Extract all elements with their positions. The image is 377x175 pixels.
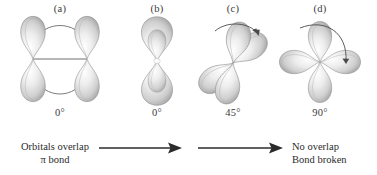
- p-orbital-fixed-c: [213, 20, 254, 106]
- node-highlight-b: [154, 59, 160, 64]
- angle-label-a: 0°: [35, 107, 85, 118]
- caption-right-line1: No overlap: [292, 141, 339, 152]
- caption-right-line2: Bond broken: [292, 153, 347, 166]
- panel-d-orbitals: [279, 21, 360, 102]
- orbital-rotation-figure: (a) (b) (c) (d): [0, 0, 377, 175]
- flow-arrow-2: [198, 143, 283, 154]
- panel-a-orbitals: [21, 16, 100, 101]
- panel-b-orbitals: [141, 17, 172, 106]
- angle-label-d: 90°: [295, 107, 345, 118]
- panel-c-orbitals: [193, 20, 272, 106]
- flow-arrow-1: [99, 143, 182, 154]
- angle-label-c: 45°: [208, 107, 258, 118]
- caption-right: No overlap Bond broken: [292, 140, 347, 166]
- angle-label-b: 0°: [132, 107, 182, 118]
